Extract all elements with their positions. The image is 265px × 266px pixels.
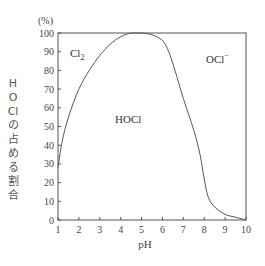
x-tick-label: 9 — [223, 224, 228, 235]
x-tick-label: 2 — [76, 224, 81, 235]
x-tick-label: 3 — [97, 224, 102, 235]
y-tick-label: 40 — [44, 140, 54, 151]
y-unit-label: (%) — [38, 15, 53, 27]
x-tick-label: 6 — [160, 224, 165, 235]
y-tick-label: 90 — [44, 46, 54, 57]
y-axis-title: HOClの占める割合 — [6, 77, 20, 203]
x-axis-title: pH — [138, 238, 152, 250]
y-tick-label: 60 — [44, 102, 54, 113]
x-tick-label: 1 — [56, 224, 61, 235]
ocl-label: OCl− — [206, 51, 229, 65]
y-tick-label: 80 — [44, 65, 54, 76]
y-tick-label: 70 — [44, 84, 54, 95]
x-tick-label: 5 — [139, 224, 144, 235]
y-tick-label: 20 — [44, 177, 54, 188]
x-tick-label: 8 — [202, 224, 207, 235]
y-tick-label: 100 — [39, 28, 54, 39]
y-tick-label: 0 — [49, 215, 54, 226]
hocl-label: HOCl — [115, 113, 141, 125]
y-tick-label: 30 — [44, 158, 54, 169]
y-tick-label: 50 — [44, 121, 54, 132]
chart-canvas: 0102030405060708090100 12345678910 (%) p… — [0, 0, 265, 266]
x-tick-label: 7 — [181, 224, 186, 235]
x-tick-label: 10 — [241, 224, 251, 235]
x-tick-label: 4 — [118, 224, 123, 235]
cl2-label: Cl2 — [70, 47, 84, 62]
y-tick-label: 10 — [44, 196, 54, 207]
